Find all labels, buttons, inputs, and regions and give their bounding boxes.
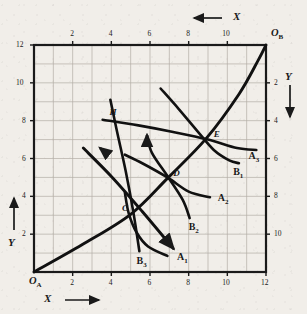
curve-label-A1: A1 [177, 251, 188, 265]
tick-label: 10 [222, 278, 230, 287]
left-axis-name: Y [8, 236, 15, 248]
curve-label-sub: 1 [240, 172, 244, 180]
origin-OB: OB [271, 27, 283, 41]
top-axis-name: X [233, 10, 240, 22]
curve-label-sub: 3 [143, 261, 147, 269]
tick-label: 6 [148, 29, 152, 38]
tick-label: 4 [109, 278, 113, 287]
point-label-D: D [173, 168, 180, 178]
tick-label: 8 [186, 29, 190, 38]
curve-label-sub: 3 [256, 156, 260, 164]
origin-OA-letter: O [29, 275, 37, 286]
tick-label: 10 [222, 29, 230, 38]
origin-OB-letter: O [271, 27, 279, 38]
curve-label-sub: 2 [225, 198, 229, 206]
tick-label: 10 [274, 229, 282, 238]
curve-label-sub: 1 [184, 257, 188, 265]
tick-label: 6 [22, 154, 26, 163]
A2-preference-arrow [100, 148, 105, 152]
bottom-axis-name: X [44, 292, 51, 304]
tick-label: 6 [148, 278, 152, 287]
tick-label: 8 [274, 191, 278, 200]
curve-A3 [103, 120, 257, 150]
point-label-C: C [122, 203, 128, 213]
curve-label-sub: 2 [195, 227, 199, 235]
tick-label: 12 [16, 40, 24, 49]
curve-label-letter: B [233, 166, 240, 177]
point-label-H: H [109, 107, 116, 117]
curve-label-A2: A2 [218, 192, 229, 206]
curve-label-B1: B1 [233, 166, 243, 180]
tick-label: 8 [186, 278, 190, 287]
grid [34, 45, 266, 272]
tick-label: 12 [261, 278, 269, 287]
tick-label: 6 [274, 154, 278, 163]
tick-label: 4 [22, 191, 26, 200]
origin-OB-sub: B [279, 33, 284, 41]
curve-label-letter: A [218, 192, 225, 203]
curve-label-B3: B3 [136, 255, 146, 269]
tick-label: 10 [16, 78, 24, 87]
tick-label: 2 [22, 229, 26, 238]
tick-label: 8 [22, 116, 26, 125]
curve-label-letter: A [249, 150, 256, 161]
tick-label: 4 [274, 116, 278, 125]
curve-label-B2: B2 [189, 221, 199, 235]
right-axis-name: Y [285, 70, 292, 82]
edgeworth-box-figure [0, 0, 307, 314]
origin-OA-sub: A [37, 281, 42, 289]
curve-label-A3: A3 [249, 150, 260, 164]
tick-label: 2 [274, 78, 278, 87]
origin-OA: OA [29, 275, 42, 289]
point-label-E: E [214, 129, 220, 139]
tick-label: 4 [109, 29, 113, 38]
tick-label: 2 [70, 278, 74, 287]
tick-label: 2 [70, 29, 74, 38]
